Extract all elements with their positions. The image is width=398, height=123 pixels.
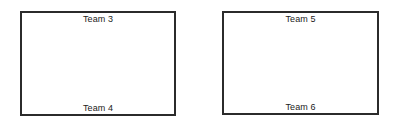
- team-label-top-right: Team 5: [224, 14, 377, 24]
- team-label-bottom-right: Team 6: [224, 102, 377, 112]
- team-box-right: Team 5 Team 6: [222, 11, 379, 115]
- team-label-bottom-left: Team 4: [22, 103, 174, 113]
- team-label-top-left: Team 3: [22, 14, 174, 24]
- diagram-canvas: Team 3 Team 4 Team 5 Team 6: [0, 0, 398, 123]
- team-box-left: Team 3 Team 4: [20, 11, 176, 116]
